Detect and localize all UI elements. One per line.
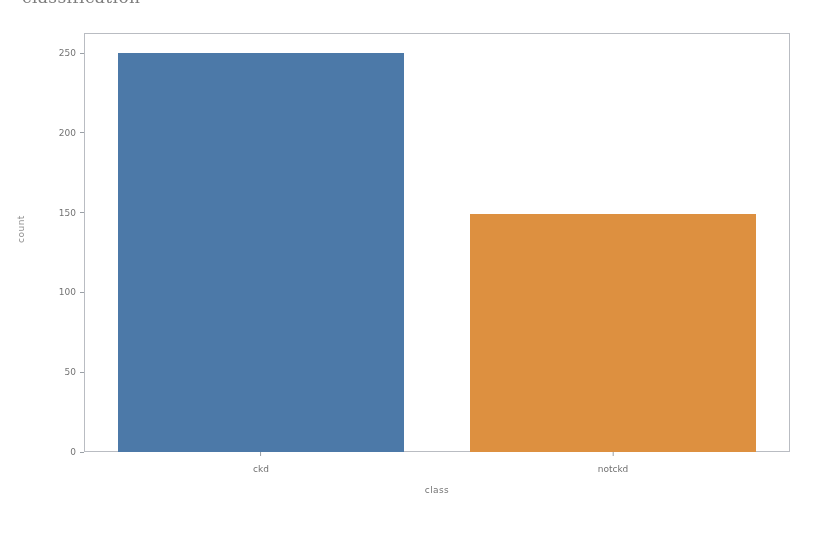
y-tick-mark	[80, 292, 84, 293]
x-axis: class ckdnotckd	[0, 452, 816, 533]
y-tick-250: 250	[59, 48, 84, 58]
y-tick-150: 150	[59, 208, 84, 218]
x-tick-label: notckd	[598, 464, 629, 474]
y-tick-label: 250	[59, 48, 80, 58]
x-tick-mark	[613, 452, 614, 456]
count-plot-figure: count 050100150200250 class ckdnotckd	[0, 0, 816, 533]
y-tick-200: 200	[59, 128, 84, 138]
bar-notckd	[470, 214, 757, 452]
x-axis-title: class	[425, 485, 449, 495]
bar-ckd	[118, 53, 405, 452]
y-tick-mark	[80, 132, 84, 133]
y-tick-mark	[80, 372, 84, 373]
y-tick-label: 200	[59, 128, 80, 138]
y-tick-50: 50	[65, 367, 84, 377]
x-tick-label: ckd	[253, 464, 269, 474]
x-tick-ckd: ckd	[253, 452, 269, 474]
y-tick-label: 50	[65, 367, 80, 377]
y-tick-100: 100	[59, 287, 84, 297]
y-tick-mark	[80, 53, 84, 54]
x-tick-mark	[261, 452, 262, 456]
y-tick-label: 150	[59, 208, 80, 218]
y-tick-label: 100	[59, 287, 80, 297]
y-axis-title: count	[16, 215, 26, 243]
y-tick-mark	[80, 212, 84, 213]
bars-layer	[85, 34, 789, 452]
x-tick-notckd: notckd	[598, 452, 629, 474]
